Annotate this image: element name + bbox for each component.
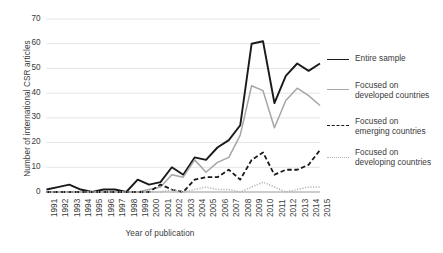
series-lines [47,41,321,192]
series-line-1 [47,86,321,192]
series-line-2 [47,150,321,192]
gridlines [47,19,321,192]
chart-figure: Number of international CSR articles Yea… [0,0,443,253]
plot-area [0,0,443,253]
